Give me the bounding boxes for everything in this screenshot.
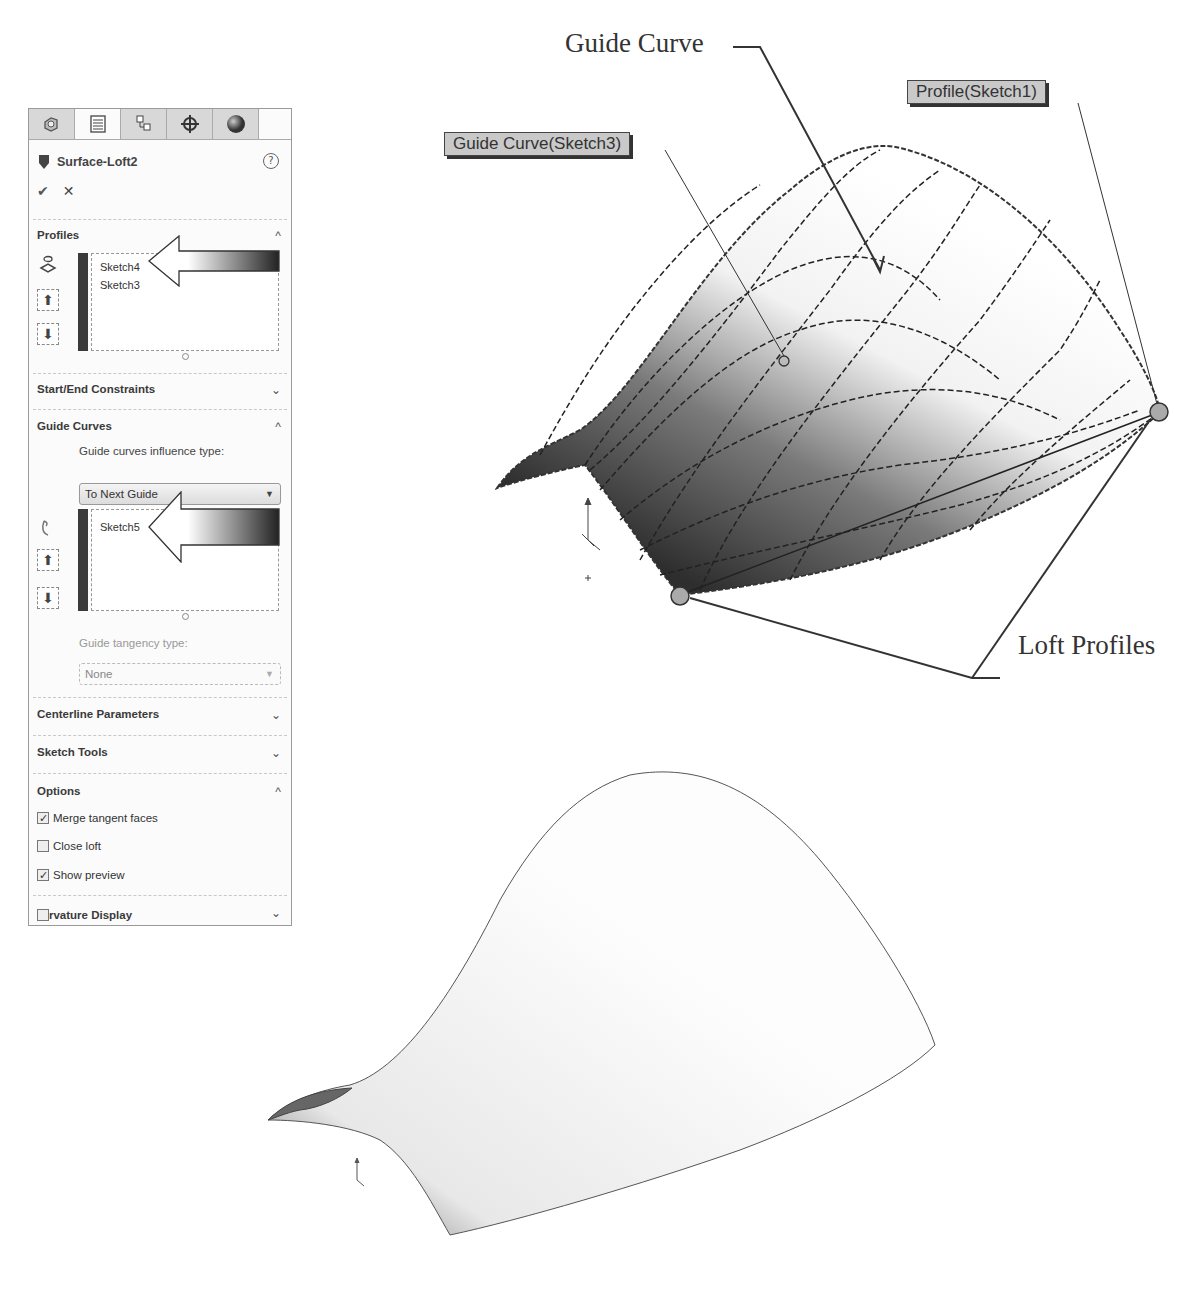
loft-preview-viewport [0, 0, 1196, 1289]
profile-sketch1-tag[interactable]: Profile(Sketch1) [907, 80, 1046, 104]
coordinate-triad-icon [582, 498, 600, 581]
guide-curve-annotation: Guide Curve [565, 28, 704, 59]
guide-curve-point[interactable] [779, 356, 789, 366]
profile-point-sketch2[interactable] [671, 587, 689, 605]
guide-curve-sketch3-tag[interactable]: Guide Curve(Sketch3) [444, 132, 630, 156]
loft-surface-result[interactable] [268, 772, 935, 1235]
loft-surface-preview[interactable] [497, 146, 1160, 595]
profile-point-sketch1[interactable] [1150, 403, 1168, 421]
loft-profiles-annotation: Loft Profiles [1018, 630, 1155, 661]
coordinate-triad-icon [355, 1158, 364, 1186]
